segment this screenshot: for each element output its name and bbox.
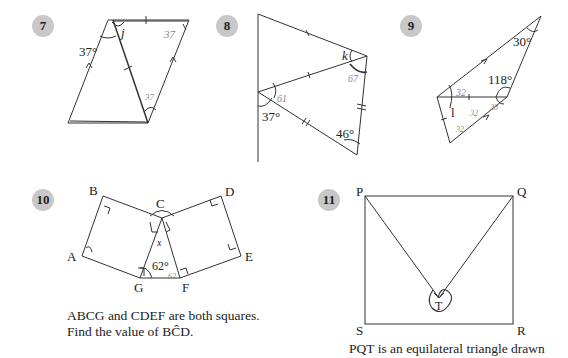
- p9-note-top: 32: [455, 87, 466, 98]
- p7-note-right: 37: [163, 28, 176, 40]
- p8-angle-37: 37°: [262, 109, 280, 124]
- p9-note-bottom: 32: [455, 125, 464, 134]
- p10-label-A: A: [67, 249, 77, 264]
- p7-angle-37: 37°: [79, 44, 97, 59]
- p10-label-G: G: [134, 280, 143, 295]
- p10-angle-62: 62°: [152, 259, 169, 273]
- p9-unknown-l: l: [451, 105, 455, 120]
- p11-label-Q: Q: [517, 184, 527, 199]
- p10-label-C: C: [156, 196, 165, 211]
- p8-angle-46: 46°: [336, 126, 354, 141]
- p9-note-right: 28: [490, 103, 498, 112]
- caption-line: Find the value of BĈD.: [67, 324, 260, 340]
- problem-10-caption: ABCG and CDEF are both squares. Find the…: [67, 308, 260, 340]
- p9-angle-118: 118°: [488, 72, 512, 87]
- p11-label-R: R: [517, 323, 526, 338]
- p10-label-D: D: [225, 184, 234, 199]
- problem-11-caption: PQT is an equilateral triangle drawn: [349, 341, 545, 357]
- caption-line: ABCG and CDEF are both squares.: [67, 308, 260, 324]
- p10-note-F: 62: [168, 272, 176, 281]
- p7-unknown-j: j: [119, 25, 125, 40]
- p10-label-E: E: [245, 249, 253, 264]
- p9-note-mid: 32: [469, 109, 478, 118]
- p8-note-mid: 61: [277, 93, 287, 104]
- p8-note-k: 67: [348, 73, 359, 84]
- p10-note-x: x: [156, 237, 162, 248]
- p11-label-P: P: [356, 184, 363, 199]
- p8-unknown-k: k: [342, 48, 348, 63]
- caption-line: PQT is an equilateral triangle drawn: [349, 341, 545, 357]
- p7-note-bottom: 37: [144, 92, 155, 102]
- p10-label-B: B: [89, 183, 98, 198]
- p9-angle-30: 30°: [513, 34, 531, 49]
- p11-label-T: T: [435, 299, 443, 313]
- diagrams: 37° j 37 37 k 37° 46° 67 61 30° 118° l 3…: [0, 0, 568, 358]
- p10-label-F: F: [182, 280, 189, 295]
- p11-label-S: S: [356, 323, 363, 338]
